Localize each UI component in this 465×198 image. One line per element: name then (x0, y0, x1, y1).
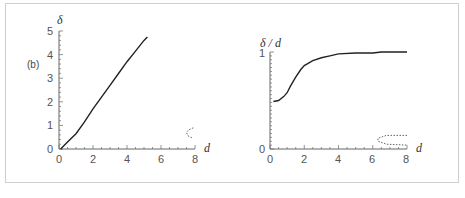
left-x-tick-8: 8 (192, 153, 198, 165)
left-dotted-loop (187, 128, 194, 139)
figure-canvas: (b) 0 1 2 3 4 5 0 2 4 6 8 δ d 0 1 0 2 (0, 0, 465, 198)
left-y-tick-5: 5 (47, 25, 53, 37)
left-y-tick-4: 4 (47, 49, 53, 61)
right-x-tick-0: 0 (267, 153, 273, 165)
right-x-tick-8: 8 (403, 153, 409, 165)
right-x-minor-ticks (270, 145, 407, 149)
right-x-tick-6: 6 (369, 153, 375, 165)
left-chart: (b) 0 1 2 3 4 5 0 2 4 6 8 δ d (27, 13, 211, 165)
left-x-tick-6: 6 (158, 153, 164, 165)
right-y-axis-title: δ / d (260, 36, 282, 50)
right-y-minor-ticks (270, 52, 274, 149)
right-x-axis-title: d (416, 141, 423, 155)
left-x-minor-ticks (59, 145, 195, 149)
left-data-line (61, 37, 148, 149)
left-x-axis-title: d (204, 141, 211, 155)
left-x-tick-0: 0 (56, 153, 62, 165)
left-y-tick-1: 1 (47, 119, 53, 131)
panel-label: (b) (27, 59, 39, 70)
left-y-axis-title: δ (57, 13, 63, 27)
left-y-tick-3: 3 (47, 72, 53, 84)
left-x-tick-2: 2 (90, 153, 96, 165)
right-x-tick-2: 2 (301, 153, 307, 165)
right-chart: 0 1 0 2 4 6 8 δ / d d (259, 36, 423, 165)
right-dotted-loop (378, 135, 407, 145)
left-y-minor-ticks (59, 31, 63, 149)
right-x-tick-4: 4 (335, 153, 341, 165)
right-y-tick-0: 0 (259, 143, 265, 155)
left-y-tick-2: 2 (47, 96, 53, 108)
left-y-tick-0: 0 (47, 143, 53, 155)
left-x-tick-4: 4 (124, 153, 130, 165)
right-data-line (273, 52, 407, 102)
